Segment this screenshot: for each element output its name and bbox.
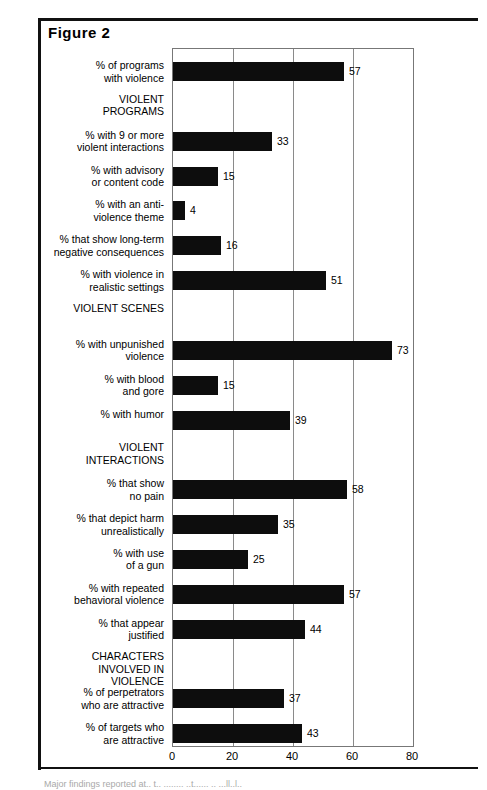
chart-row: % with an anti- violence theme4: [173, 188, 413, 223]
bar-value-label: 35: [283, 516, 295, 533]
row-label: % with use of a gun: [14, 547, 173, 572]
group-header-label: VIOLENT SCENES: [14, 302, 173, 315]
chart-row: % with use of a gun25: [173, 537, 413, 572]
bar-value-label: 51: [331, 272, 343, 289]
chart-row: % with humor39: [173, 398, 413, 433]
bar-value-label: 15: [223, 377, 235, 394]
bar: [173, 236, 221, 255]
bar: [173, 341, 392, 360]
row-label: % with 9 or more violent interactions: [14, 129, 173, 154]
row-label: % with repeated behavioral violence: [14, 582, 173, 607]
frame-bottom-rule: [38, 767, 478, 769]
chart-row: % of programs with violence57: [173, 49, 413, 84]
bar-value-label: 57: [349, 586, 361, 603]
bar: [173, 411, 290, 430]
x-tick-40: 40: [286, 750, 298, 762]
x-tick-0: 0: [169, 750, 175, 762]
chart-row: % with blood and gore15: [173, 363, 413, 398]
row-label: % with advisory or content code: [14, 164, 173, 189]
bar: [173, 515, 278, 534]
chart-row: % that show long-term negative consequen…: [173, 223, 413, 258]
row-label: % with humor: [14, 408, 173, 421]
group-header-label: CHARACTERS INVOLVED IN VIOLENCE: [14, 650, 173, 688]
chart-row: % with violence in realistic settings51: [173, 258, 413, 293]
chart-group-row: VIOLENT SCENES: [173, 293, 413, 328]
bar-value-label: 57: [349, 63, 361, 80]
row-label: % of programs with violence: [14, 59, 173, 84]
bar-value-label: 15: [223, 168, 235, 185]
x-tick-80: 80: [406, 750, 418, 762]
x-tick-60: 60: [346, 750, 358, 762]
bar: [173, 585, 344, 604]
chart-row: % that show no pain58: [173, 467, 413, 502]
bar-value-label: 58: [352, 481, 364, 498]
x-axis-tick-labels: 020406080: [172, 750, 412, 766]
bar: [173, 132, 272, 151]
bar: [173, 201, 185, 220]
bar-value-label: 4: [190, 202, 196, 219]
row-label: % with unpunished violence: [14, 338, 173, 363]
bar-chart-plot-area: % of programs with violence57VIOLENT PRO…: [172, 48, 414, 747]
chart-row: % that appear justified44: [173, 607, 413, 642]
chart-group-row: VIOLENT INTERACTIONS: [173, 432, 413, 467]
bar: [173, 271, 326, 290]
bar: [173, 167, 218, 186]
chart-row: % of targets who are attractive43: [173, 711, 413, 746]
figure-title: Figure 2: [48, 24, 110, 41]
figure-footnote-fragment: Major findings reported at.. t.. .......…: [44, 779, 474, 789]
row-label: % that appear justified: [14, 617, 173, 642]
x-tick-20: 20: [226, 750, 238, 762]
chart-row: % with unpunished violence73: [173, 328, 413, 363]
chart-group-row: CHARACTERS INVOLVED IN VIOLENCE: [173, 641, 413, 676]
bar-value-label: 25: [253, 551, 265, 568]
bar: [173, 62, 344, 81]
bar: [173, 480, 347, 499]
bar-value-label: 37: [289, 690, 301, 707]
row-label: % that show no pain: [14, 477, 173, 502]
chart-row: % with 9 or more violent interactions33: [173, 119, 413, 154]
row-label: % with an anti- violence theme: [14, 198, 173, 223]
row-label: % of targets who are attractive: [14, 721, 173, 746]
bar: [173, 620, 305, 639]
bar-value-label: 73: [397, 342, 409, 359]
bar: [173, 550, 248, 569]
bar-value-label: 39: [295, 412, 307, 429]
bar-value-label: 43: [307, 725, 319, 742]
chart-group-row: VIOLENT PROGRAMS: [173, 84, 413, 119]
bar-value-label: 33: [277, 133, 289, 150]
row-label: % with violence in realistic settings: [14, 268, 173, 293]
frame-top-rule: [38, 18, 478, 21]
row-label: % of perpetrators who are attractive: [14, 686, 173, 711]
chart-row: % with advisory or content code15: [173, 154, 413, 189]
bar: [173, 376, 218, 395]
row-label: % that show long-term negative consequen…: [14, 233, 173, 258]
chart-row: % with repeated behavioral violence57: [173, 572, 413, 607]
row-label: % that depict harm unrealistically: [14, 512, 173, 537]
bar-value-label: 44: [310, 621, 322, 638]
bar: [173, 689, 284, 708]
group-header-label: VIOLENT INTERACTIONS: [14, 441, 173, 466]
chart-row: % that depict harm unrealistically35: [173, 502, 413, 537]
group-header-label: VIOLENT PROGRAMS: [14, 93, 173, 118]
bar: [173, 724, 302, 743]
chart-row: % of perpetrators who are attractive37: [173, 676, 413, 711]
bar-value-label: 16: [226, 237, 238, 254]
row-label: % with blood and gore: [14, 373, 173, 398]
